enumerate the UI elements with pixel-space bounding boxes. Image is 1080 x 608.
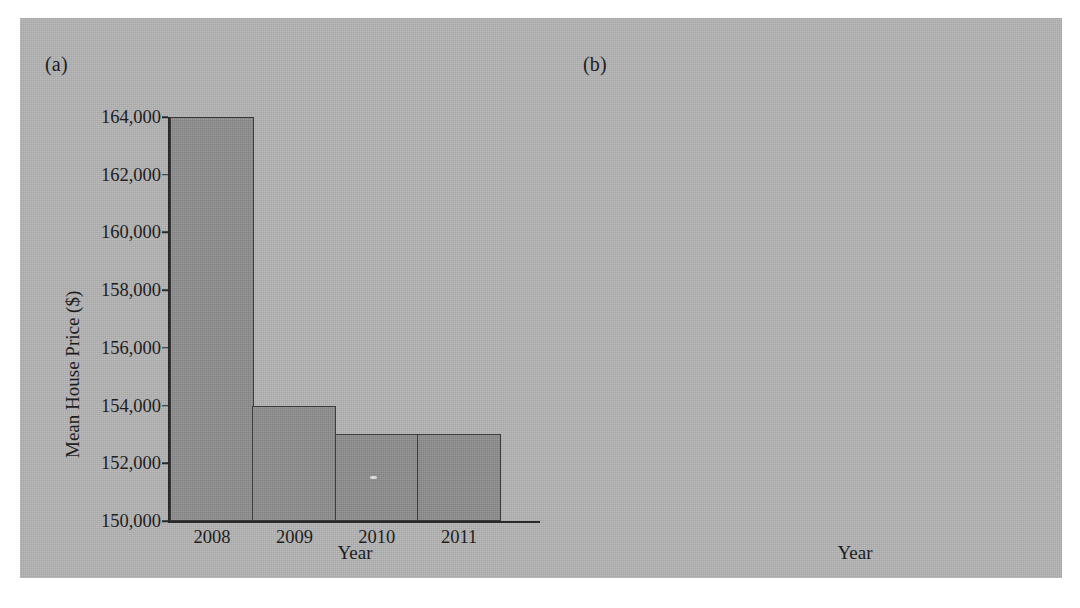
bar-2010: 2010 [335,434,419,521]
y-tick-label: 164,000 [101,107,161,128]
y-tick-mark [162,463,168,465]
y-tick-mark [162,232,168,234]
x-tick-label: 2008 [194,527,231,548]
y-tick-label: 156,000 [101,337,161,358]
y-tick-mark [162,520,168,522]
bar-group-a: 2008200920102011 [170,117,542,521]
panel-label-a: (a) [45,53,68,76]
y-tick-mark [162,347,168,349]
chart-panel-a: (a) Mean House Price ($) Year 150,000152… [20,18,545,578]
y-tick-label: 150,000 [101,511,161,532]
y-tick-mark [162,289,168,291]
y-tick-label: 158,000 [101,280,161,301]
y-tick-mark [162,405,168,407]
y-tick-label: 162,000 [101,164,161,185]
plot-area-a: 150,000152,000154,000156,000158,000160,0… [168,117,540,523]
y-tick-label: 160,000 [101,222,161,243]
y-tick-label: 154,000 [101,395,161,416]
x-tick-label: 2010 [358,527,395,548]
y-axis-label-a: Mean House Price ($) [62,291,84,458]
y-tick-mark [162,174,168,176]
x-axis-label-b: Year [665,542,1045,564]
panel-label-b: (b) [583,53,607,76]
x-axis-line-a [168,521,540,523]
bar-2008: 2008 [170,117,254,521]
y-tick-label: 152,000 [101,453,161,474]
x-tick-label: 2011 [441,527,477,548]
x-tick-label: 2009 [276,527,313,548]
figure-canvas: (a) Mean House Price ($) Year 150,000152… [20,18,1062,578]
y-tick-mark [162,116,168,118]
scan-artifact-speck [370,476,377,479]
bar-2009: 2009 [252,406,336,521]
chart-panel-b: (b) Mean House Price ($) Year 025,00050,… [545,18,1062,578]
bar-2011: 2011 [417,434,501,521]
